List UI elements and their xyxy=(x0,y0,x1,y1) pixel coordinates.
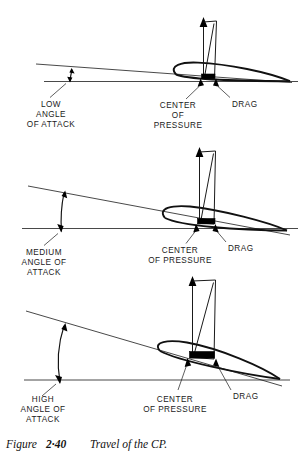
cp-label-high-line2: OF PRESSURE xyxy=(143,405,207,414)
angle-arrow-lower-high xyxy=(55,375,62,384)
angle-arc-high xyxy=(58,326,64,383)
angle-label-medium-line3: ATTACK xyxy=(27,268,61,277)
angle-label-medium-line2: ANGLE OF xyxy=(21,258,66,267)
resultant-vector-medium xyxy=(201,154,214,223)
figure-caption: Figure 2·40 Travel of the CP. xyxy=(5,438,167,451)
drag-label-low: DRAG xyxy=(232,100,257,109)
angle-label-low-line3: OF ATTACK xyxy=(27,120,75,129)
caption-text: Travel of the CP. xyxy=(90,438,167,451)
cp-label-low-line3: PRESSURE xyxy=(154,121,203,130)
drag-label-medium: DRAG xyxy=(228,244,253,253)
angle-arrow-upper-low xyxy=(69,68,74,73)
angle-leader-line-low xyxy=(50,84,66,98)
cp-leader-line-medium xyxy=(186,232,195,244)
angle-leader-line-medium xyxy=(44,234,58,246)
panel-high-angle: HIGH ANGLE OF ATTACK CENTER OF PRESSURE … xyxy=(20,276,290,424)
angle-label-high-line2: ANGLE OF xyxy=(20,405,65,414)
chord-line-high xyxy=(26,311,282,386)
angle-label-low-line1: LOW xyxy=(41,100,61,109)
chord-line-medium xyxy=(28,186,290,235)
cp-leader-arrow-low xyxy=(198,79,204,87)
vector-box-top-medium xyxy=(200,151,216,152)
cp-label-high-line1: CENTER xyxy=(157,395,193,404)
center-of-pressure-marker-medium xyxy=(198,219,216,224)
drag-label-high: DRAG xyxy=(233,392,258,401)
cp-label-low-line1: CENTER xyxy=(160,101,196,110)
caption-prefix: Figure xyxy=(5,438,37,451)
airfoil-upper-medium xyxy=(163,206,287,230)
drag-leader-line-low xyxy=(218,87,230,98)
drag-vector-medium xyxy=(214,151,216,224)
center-of-pressure-marker-low xyxy=(202,74,216,79)
angle-label-high-line1: HIGH xyxy=(32,395,54,404)
airfoil-upper-high xyxy=(158,341,280,379)
resultant-vector-low xyxy=(205,24,215,78)
figure-travel-of-cp: LOW ANGLE OF ATTACK CENTER OF PRESSURE D… xyxy=(0,0,301,457)
cp-leader-line-high xyxy=(178,367,186,391)
angle-label-medium-line1: MEDIUM xyxy=(26,248,62,257)
angle-label-high-line3: ATTACK xyxy=(26,415,60,424)
vector-box-top-high xyxy=(193,280,216,281)
panel-medium-angle: MEDIUM ANGLE OF ATTACK CENTER OF PRESSUR… xyxy=(21,147,298,277)
panel-low-angle: LOW ANGLE OF ATTACK CENTER OF PRESSURE D… xyxy=(27,17,298,130)
center-of-pressure-marker-high xyxy=(190,352,215,359)
angle-label-low-line2: ANGLE xyxy=(36,110,66,119)
cp-travel-diagram: LOW ANGLE OF ATTACK CENTER OF PRESSURE D… xyxy=(0,0,301,457)
drag-vector-low xyxy=(215,21,217,78)
cp-label-medium-line1: CENTER xyxy=(162,246,198,255)
vector-box-top-low xyxy=(204,21,217,22)
drag-vector-high xyxy=(214,280,216,359)
cp-leader-line-low xyxy=(186,87,199,100)
angle-arrow-upper-medium xyxy=(62,191,68,199)
caption-number: 2·40 xyxy=(45,438,66,450)
cp-label-medium-line2: OF PRESSURE xyxy=(148,256,212,265)
drag-leader-line-medium xyxy=(218,232,227,242)
cp-label-low-line2: OF xyxy=(172,111,184,120)
